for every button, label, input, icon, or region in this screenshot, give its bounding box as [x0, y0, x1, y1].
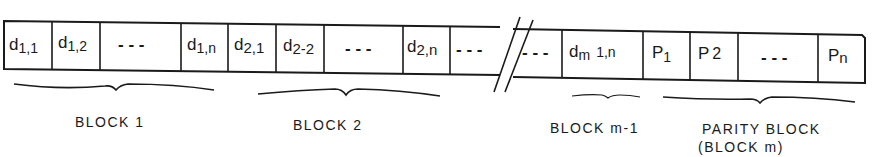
cell-ellipsis-4: - - - [522, 43, 548, 62]
brace-block-m1 [572, 95, 640, 98]
cell-ellipsis-2: - - - [345, 39, 371, 58]
cell-ellipsis-1: - - - [118, 35, 144, 54]
cell-pn: Pn [828, 46, 848, 66]
strip-right-border [513, 29, 865, 83]
cell-ellipsis-3: - - - [456, 40, 482, 59]
cell-dm1n: dm1,n [569, 42, 616, 63]
braces [14, 84, 855, 103]
block-labels: BLOCK 1 BLOCK 2 BLOCK m-1 PARITY BLOCK (… [75, 114, 821, 155]
label-parity-block: PARITY BLOCK [702, 121, 821, 137]
brace-parity-block [663, 97, 855, 103]
brace-block-1 [14, 84, 214, 90]
label-parity-block-m: (BLOCK m) [698, 139, 784, 155]
cell-p1: P1 [652, 43, 671, 65]
block-parity-diagram: d1,1 d1,2 - - - d1,n d2,1 d2-2 - - - d2,… [0, 0, 878, 157]
cell-d21: d2,1 [234, 35, 264, 56]
brace-block-2 [258, 89, 440, 96]
cell-d11: d1,1 [9, 35, 38, 56]
label-block-2: BLOCK 2 [293, 117, 363, 133]
label-block-1: BLOCK 1 [75, 114, 145, 130]
cell-p2: P2 [698, 44, 721, 63]
cell-d2n: d2,n [407, 37, 437, 58]
cell-d1n: d1,n [187, 35, 216, 56]
cell-labels: d1,1 d1,2 - - - d1,n d2,1 d2-2 - - - d2,… [9, 33, 848, 67]
cell-ellipsis-5: - - - [761, 48, 787, 67]
label-block-m1: BLOCK m-1 [550, 120, 639, 136]
cell-d12: d1,2 [58, 33, 87, 54]
cell-d22: d2-2 [283, 36, 314, 57]
